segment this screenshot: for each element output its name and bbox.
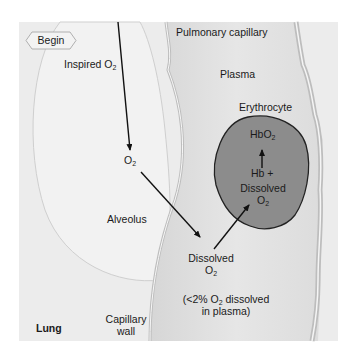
begin-badge: Begin xyxy=(25,31,77,50)
hbo2-label: HbO2 xyxy=(250,128,276,140)
hb-plus-label: Hb + xyxy=(251,167,273,179)
alveolus-label: Alveolus xyxy=(107,213,147,225)
dissolved-o2-rbc-label: Dissolved O2 xyxy=(240,182,286,206)
plasma-percentage-note: (<2% O2 dissolved in plasma) xyxy=(180,293,272,317)
oxygen-transport-diagram: Begin Inspired O2 Pulmonary capillary Pl… xyxy=(0,0,352,359)
diagram-artwork xyxy=(0,0,352,359)
pulmonary-capillary-label: Pulmonary capillary xyxy=(176,26,268,38)
alveolar-o2-label: O2 xyxy=(124,154,136,166)
plasma-label: Plasma xyxy=(220,68,255,80)
capillary-wall-label: Capillary wall xyxy=(104,313,148,337)
inspired-o2-label: Inspired O2 xyxy=(64,58,116,70)
lung-label: Lung xyxy=(36,322,62,334)
begin-label: Begin xyxy=(25,34,77,46)
erythrocyte-label: Erythrocyte xyxy=(239,101,292,113)
dissolved-o2-plasma-label: Dissolved O2 xyxy=(187,252,235,276)
